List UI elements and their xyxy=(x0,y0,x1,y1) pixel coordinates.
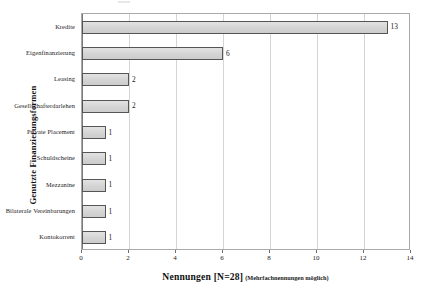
x-tick-mark xyxy=(175,250,176,253)
bar-row: 1 xyxy=(82,172,409,198)
bar-row: 1 xyxy=(82,198,409,224)
bar xyxy=(82,73,129,86)
bar xyxy=(82,152,106,165)
bar-value-label: 1 xyxy=(109,129,113,136)
bar-value-label: 2 xyxy=(132,102,136,109)
x-tick-label: 6 xyxy=(220,254,224,262)
bar xyxy=(82,126,106,139)
x-axis-ticks: 02468101214 xyxy=(81,250,410,264)
bar xyxy=(82,231,106,244)
x-axis-title-note: (Mehrfachnennungen möglich) xyxy=(245,274,328,281)
x-tick-label: 12 xyxy=(360,254,367,262)
bar-value-label: 1 xyxy=(109,181,113,188)
y-axis-category-label: Gesellschafterdarlehen xyxy=(14,92,75,118)
bar-value-label: 1 xyxy=(109,208,113,215)
bar xyxy=(82,100,129,113)
bar-value-label: 13 xyxy=(391,23,398,30)
x-tick-mark xyxy=(363,250,364,253)
x-tick-mark xyxy=(269,250,270,253)
bar-row: 1 xyxy=(82,225,409,251)
x-tick-mark xyxy=(81,250,82,253)
bar-row: 6 xyxy=(82,40,409,66)
x-tick-label: 2 xyxy=(126,254,130,262)
bar-value-label: 1 xyxy=(109,234,113,241)
top-crop-artifact xyxy=(118,1,130,3)
bar-row: 1 xyxy=(82,119,409,145)
bar-row: 2 xyxy=(82,67,409,93)
bar-series: 1362211111 xyxy=(82,14,409,249)
y-axis-category-label: Mezzanine xyxy=(46,171,75,197)
bar-row: 1 xyxy=(82,146,409,172)
x-axis-title: Nennungen [N=28](Mehrfachnennungen mögli… xyxy=(81,266,410,284)
bar xyxy=(82,47,223,60)
bar-row: 2 xyxy=(82,93,409,119)
x-axis-title-main: Nennungen [N=28] xyxy=(162,271,243,282)
x-tick-label: 10 xyxy=(313,254,320,262)
y-axis-category-label: Eigenfinanzierung xyxy=(26,39,75,65)
bar-chart: Genutzte Finanzierungsformen KrediteEige… xyxy=(0,0,422,286)
x-tick-label: 14 xyxy=(407,254,414,262)
x-tick-label: 0 xyxy=(79,254,83,262)
bar xyxy=(82,21,388,34)
y-axis-category-label: Private Placement xyxy=(27,118,75,144)
x-tick-mark xyxy=(410,250,411,253)
x-tick-label: 4 xyxy=(173,254,177,262)
x-tick-mark xyxy=(316,250,317,253)
bar xyxy=(82,205,106,218)
x-tick-label: 8 xyxy=(267,254,271,262)
x-tick-mark xyxy=(222,250,223,253)
bar-value-label: 6 xyxy=(226,50,230,57)
y-axis-category-label: Schuldscheine xyxy=(37,145,75,171)
y-axis-category-label: Kredite xyxy=(55,13,75,39)
bar-value-label: 2 xyxy=(132,76,136,83)
y-axis-category-label: Leasing xyxy=(54,66,75,92)
y-axis-category-label: Bilaterale Vereinbarungen xyxy=(6,197,75,223)
y-axis-category-label: Kontokorrent xyxy=(39,224,75,250)
bar-value-label: 1 xyxy=(109,155,113,162)
plot-area: 1362211111 xyxy=(81,13,410,250)
bar-row: 13 xyxy=(82,14,409,40)
bar xyxy=(82,179,106,192)
x-tick-mark xyxy=(128,250,129,253)
y-axis-category-labels: KrediteEigenfinanzierungLeasingGesellsch… xyxy=(0,13,78,250)
